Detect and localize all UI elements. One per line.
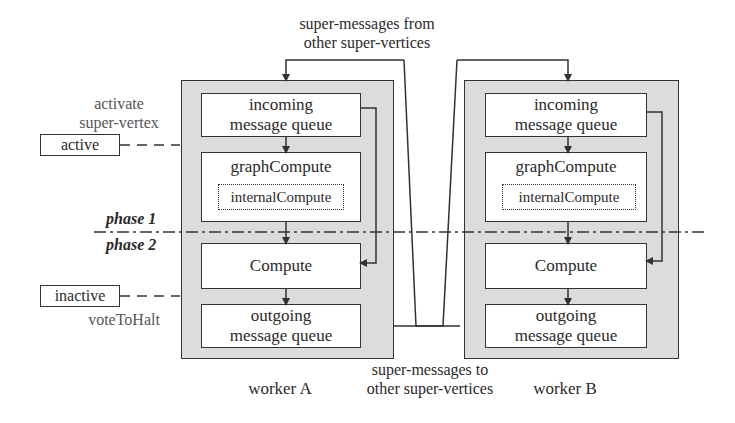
phase-1-text: phase 1 <box>106 210 156 227</box>
phase-2-label: phase 2 <box>106 236 156 254</box>
worker-b-incoming-queue: incoming message queue <box>485 93 647 137</box>
worker-a-outgoing-queue: outgoing message queue <box>201 304 361 348</box>
bottom-label-line1: super-messages to <box>350 360 510 379</box>
worker-a-internal-compute: internalCompute <box>218 184 344 210</box>
vote-to-halt-text: voteToHalt <box>88 311 160 328</box>
inactive-state-box: inactive <box>40 285 120 307</box>
worker-b-internal-compute: internalCompute <box>502 184 636 210</box>
vote-to-halt-label: voteToHalt <box>74 310 174 329</box>
worker-a-compute: Compute <box>201 243 361 289</box>
worker-b-compute: Compute <box>485 243 647 289</box>
outgoing-super-messages-label: super-messages to other super-vertices <box>350 360 510 398</box>
incoming-line1: incoming <box>249 95 313 115</box>
incoming-line2: message queue <box>515 115 617 135</box>
activate-super-vertex-label: activate super-vertex <box>64 94 174 132</box>
outgoing-line2: message queue <box>515 326 617 346</box>
inactive-state-label: inactive <box>55 287 106 305</box>
activate-line1: activate <box>64 94 174 113</box>
worker-a-incoming-queue: incoming message queue <box>201 93 361 137</box>
worker-b-outgoing-queue: outgoing message queue <box>485 304 647 348</box>
worker-a-label: worker A <box>220 379 340 398</box>
outgoing-line1: outgoing <box>251 306 311 326</box>
top-label-line1: super-messages from <box>272 14 462 33</box>
active-state-box: active <box>40 134 120 156</box>
active-state-label: active <box>61 136 99 154</box>
graph-compute-label: graphCompute <box>515 157 616 177</box>
worker-b-label: worker B <box>505 379 625 398</box>
compute-label: Compute <box>250 256 312 276</box>
bottom-label-line2: other super-vertices <box>350 379 510 398</box>
phase-1-label: phase 1 <box>106 210 156 228</box>
incoming-line2: message queue <box>230 115 332 135</box>
worker-b-name: worker B <box>533 379 597 398</box>
incoming-line1: incoming <box>534 95 598 115</box>
worker-a-name: worker A <box>248 379 312 398</box>
activate-line2: super-vertex <box>64 113 174 132</box>
internal-compute-label: internalCompute <box>519 189 620 206</box>
phase-2-text: phase 2 <box>106 236 156 253</box>
internal-compute-label: internalCompute <box>231 189 332 206</box>
incoming-super-messages-label: super-messages from other super-vertices <box>272 14 462 52</box>
graph-compute-label: graphCompute <box>230 157 331 177</box>
compute-label: Compute <box>535 256 597 276</box>
top-label-line2: other super-vertices <box>272 33 462 52</box>
outgoing-line1: outgoing <box>536 306 596 326</box>
outgoing-line2: message queue <box>230 326 332 346</box>
